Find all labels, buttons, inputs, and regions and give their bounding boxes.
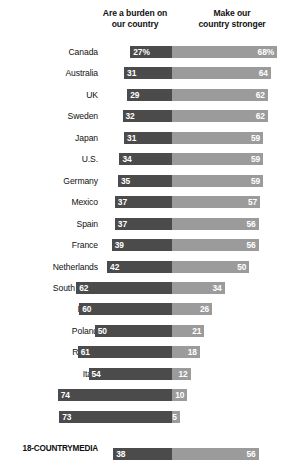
bar-value-burden: 38 <box>116 448 125 460</box>
bar-segment-stronger: 26 <box>172 303 212 315</box>
bar-segment-stronger: 5 <box>172 411 180 423</box>
bar-segment-burden: 39 <box>112 239 172 251</box>
chart-row: Italy5412 <box>0 368 283 389</box>
row-bar-group: 735 <box>0 411 283 423</box>
bar-segment-burden: 54 <box>89 368 172 380</box>
row-bar-group: 3956 <box>0 239 283 251</box>
bar-value-burden: 50 <box>98 325 107 337</box>
row-bar-group: 3164 <box>0 67 283 79</box>
row-bar-group: 3856 <box>0 448 283 460</box>
bar-segment-burden: 38 <box>113 448 172 460</box>
bar-value-stronger: 26 <box>200 303 209 315</box>
row-bar-group: 3756 <box>0 218 283 230</box>
bar-value-burden: 29 <box>130 89 139 101</box>
chart-row-median: 18-COUNTRYMEDIA3856 <box>0 448 283 465</box>
chart-row: Spain3756 <box>0 218 283 239</box>
bar-segment-stronger: 56 <box>172 448 259 460</box>
bar-segment-burden: 50 <box>95 325 172 337</box>
bar-segment-stronger: 59 <box>172 175 263 187</box>
bar-segment-stronger: 57 <box>172 196 260 208</box>
chart-row: Greece7410 <box>0 389 283 410</box>
bar-segment-burden: 42 <box>107 261 172 273</box>
bar-segment-stronger: 34 <box>172 282 225 294</box>
bar-segment-stronger: 10 <box>172 389 187 401</box>
bar-segment-stronger: 64 <box>172 67 271 79</box>
bar-segment-stronger: 56 <box>172 218 259 230</box>
bar-segment-stronger: 68% <box>172 46 277 58</box>
bar-segment-stronger: 50 <box>172 261 249 273</box>
row-bar-group: 27%68% <box>0 46 283 58</box>
bar-segment-burden: 27% <box>130 46 172 58</box>
bar-value-burden: 27% <box>133 46 149 58</box>
chart-row: Netherlands4250 <box>0 261 283 282</box>
chart-row: Sweden3262 <box>0 110 283 131</box>
bar-segment-burden: 73 <box>59 411 172 423</box>
chart-legend-headers: Are a burden on our country Make our cou… <box>0 8 283 42</box>
row-bar-group: 4250 <box>0 261 283 273</box>
chart-row: Australia3164 <box>0 67 283 88</box>
bar-value-stronger: 56 <box>246 239 255 251</box>
bar-value-burden: 62 <box>79 282 88 294</box>
chart-row: Poland5021 <box>0 325 283 346</box>
bar-value-stronger: 62 <box>256 110 265 122</box>
row-bar-group: 5021 <box>0 325 283 337</box>
bar-value-stronger: 21 <box>192 325 201 337</box>
bar-segment-stronger: 62 <box>172 89 268 101</box>
bar-value-burden: 60 <box>82 303 91 315</box>
bar-segment-stronger: 21 <box>172 325 204 337</box>
diverging-bar-chart: Are a burden on our country Make our cou… <box>0 0 283 465</box>
legend-stronger-line1: Make our <box>186 8 278 19</box>
bar-value-burden: 42 <box>110 261 119 273</box>
bar-segment-stronger: 59 <box>172 153 263 165</box>
bar-segment-burden: 61 <box>78 346 172 358</box>
bar-value-burden: 73 <box>62 411 71 423</box>
bar-segment-burden: 60 <box>79 303 172 315</box>
bar-segment-burden: 32 <box>123 110 172 122</box>
chart-row: France3956 <box>0 239 283 260</box>
bar-segment-burden: 35 <box>118 175 172 187</box>
chart-row: Germany3559 <box>0 175 283 196</box>
bar-segment-burden: 37 <box>115 196 172 208</box>
bar-value-stronger: 64 <box>259 67 268 79</box>
legend-stronger-line2: country stronger <box>186 19 278 30</box>
legend-burden-line1: Are a burden on <box>93 8 177 19</box>
bar-value-burden: 39 <box>115 239 124 251</box>
chart-row: Mexico3757 <box>0 196 283 217</box>
bar-value-stronger: 18 <box>188 346 197 358</box>
bar-value-burden: 34 <box>122 153 131 165</box>
bar-segment-burden: 37 <box>115 218 172 230</box>
row-bar-group: 3262 <box>0 110 283 122</box>
bar-value-burden: 31 <box>127 132 136 144</box>
bar-value-stronger: 34 <box>212 282 221 294</box>
bar-value-stronger: 5 <box>172 411 177 423</box>
bar-value-burden: 31 <box>127 67 136 79</box>
chart-row: Israel6026 <box>0 303 283 324</box>
bar-segment-burden: 31 <box>124 132 172 144</box>
row-bar-group: 6118 <box>0 346 283 358</box>
chart-row: UK2962 <box>0 89 283 110</box>
row-bar-group: 6026 <box>0 303 283 315</box>
bar-segment-burden: 74 <box>58 389 172 401</box>
chart-row: Canada27%68% <box>0 46 283 67</box>
bar-segment-stronger: 56 <box>172 239 259 251</box>
bar-value-burden: 54 <box>92 368 101 380</box>
bar-value-burden: 37 <box>118 218 127 230</box>
row-bar-group: 7410 <box>0 389 283 401</box>
bar-segment-burden: 34 <box>119 153 172 165</box>
bar-value-stronger: 56 <box>246 448 255 460</box>
bar-value-stronger: 57 <box>248 196 257 208</box>
legend-burden-line2: our country <box>93 19 177 30</box>
chart-row: Japan3159 <box>0 132 283 153</box>
bar-segment-burden: 62 <box>76 282 172 294</box>
bar-segment-burden: 29 <box>127 89 172 101</box>
bar-segment-stronger: 12 <box>172 368 191 380</box>
bar-value-burden: 61 <box>81 346 90 358</box>
bar-value-stronger: 68% <box>258 46 274 58</box>
bar-value-stronger: 10 <box>175 389 184 401</box>
chart-row: South Africa6234 <box>0 282 283 303</box>
chart-row: Russia6118 <box>0 346 283 367</box>
bar-value-burden: 37 <box>118 196 127 208</box>
bar-segment-stronger: 18 <box>172 346 200 358</box>
chart-row: U.S.3459 <box>0 153 283 174</box>
chart-row: Hungary735 <box>0 411 283 432</box>
